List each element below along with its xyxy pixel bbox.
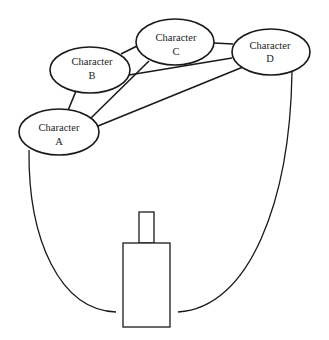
node-d-label-line1: Character [250,40,291,51]
edge-c-d [214,43,233,44]
node-a-label-line1: Character [39,122,80,133]
node-c-label-line2: C [172,46,179,57]
curve-left-a-to-object [29,150,116,312]
node-character-a: Character A [19,109,99,155]
node-a-label-line2: A [55,136,63,147]
bottom-object [123,212,170,327]
object-top-small-rect [139,212,154,243]
node-d-label-line2: D [266,53,274,64]
curve-right-d-to-object [178,72,292,312]
character-relationship-diagram: Character A Character B Character C Char… [0,0,329,340]
node-character-b: Character B [50,47,130,93]
node-character-d: Character D [232,29,310,75]
node-b-label-line2: B [88,70,95,81]
node-character-c: Character C [136,19,214,65]
ellipse-d [232,29,310,75]
object-body-rect [123,243,170,327]
node-c-label-line1: Character [156,32,197,43]
edge-b-c [121,46,137,54]
node-b-label-line1: Character [72,56,113,67]
